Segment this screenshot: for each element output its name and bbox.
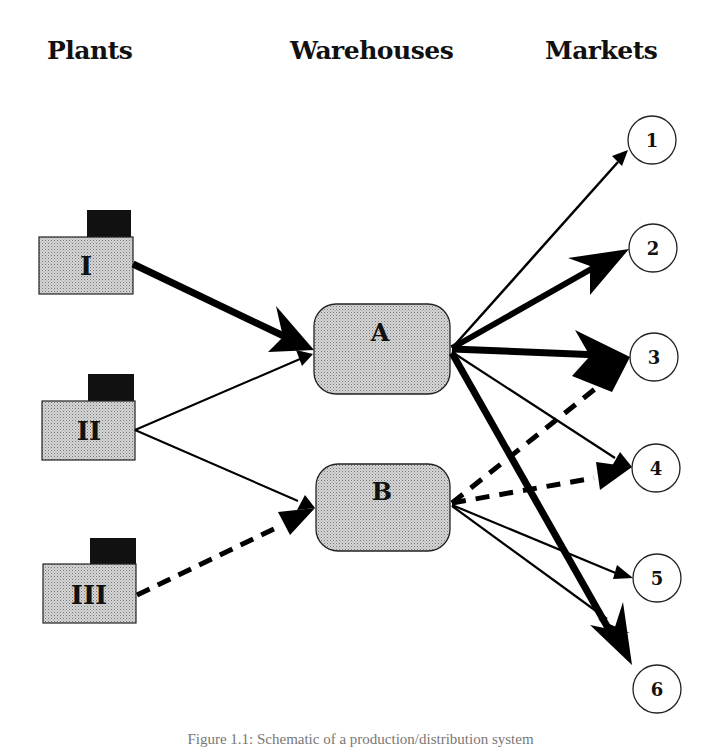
market-6-label: 6	[651, 679, 664, 700]
flow-I-A	[133, 264, 314, 352]
arrowhead-icon	[296, 350, 313, 366]
figure-caption: Figure 1.1: Schematic of a production/di…	[0, 731, 721, 748]
market-5-label: 5	[651, 568, 664, 589]
plant-III: III	[43, 538, 136, 623]
warehouse-A-label: A	[370, 318, 390, 347]
market-1: 1	[628, 116, 676, 164]
arrowhead-icon	[278, 508, 315, 535]
arrowhead-icon	[613, 565, 633, 579]
market-3: 3	[630, 333, 678, 381]
plant-I: I	[39, 210, 133, 294]
flow-A-3	[452, 330, 630, 392]
plant-I-chimney	[87, 210, 131, 238]
market-3-label: 3	[648, 347, 661, 368]
plant-III-label: III	[71, 580, 108, 610]
market-4: 4	[632, 444, 680, 492]
market-6: 6	[633, 665, 681, 713]
flow-III-B	[137, 508, 315, 595]
plant-II-label: II	[77, 416, 101, 446]
arrowhead-icon	[572, 330, 630, 392]
plant-III-chimney	[90, 538, 136, 565]
market-2-label: 2	[647, 238, 660, 259]
flow-II-B	[135, 430, 315, 510]
arrowhead-icon	[568, 249, 629, 295]
warehouse-B: B	[316, 464, 450, 551]
warehouse-A: A	[314, 304, 450, 394]
market-2: 2	[629, 224, 677, 272]
warehouse-B-label: B	[372, 477, 392, 506]
arrowhead-icon	[612, 150, 628, 166]
flow-II-A	[135, 350, 313, 430]
plant-II-chimney	[88, 374, 134, 402]
flow-A-1	[452, 150, 628, 348]
flow-A-2	[452, 249, 629, 348]
market-1-label: 1	[646, 130, 659, 151]
market-5: 5	[633, 554, 681, 602]
plant-II: II	[42, 374, 135, 460]
arrowhead-icon	[297, 495, 315, 510]
plant-I-label: I	[80, 251, 92, 281]
market-4-label: 4	[650, 458, 663, 479]
